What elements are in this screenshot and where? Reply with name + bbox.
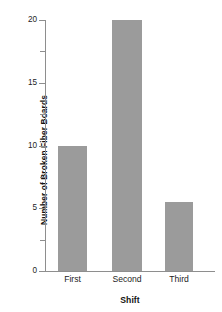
x-axis-tick-label: Third [149, 275, 209, 284]
y-axis-line [45, 20, 46, 272]
y-axis-tick-major [39, 208, 45, 209]
y-axis-tick-major [39, 146, 45, 147]
y-axis-tick-minor [40, 51, 45, 52]
x-axis-tick-label: Second [97, 275, 157, 284]
y-axis-tick-label: 0 [3, 267, 37, 275]
y-axis-tick-label: 10 [3, 142, 37, 150]
bar-chart: Number of Broken Fiber Boards 05101520 F… [0, 0, 222, 312]
x-axis-line [45, 271, 215, 272]
y-axis-tick-major [39, 271, 45, 272]
y-axis-tick-major [39, 83, 45, 84]
y-axis-tick-label: 15 [3, 79, 37, 87]
y-axis-title: Number of Broken Fiber Boards [39, 60, 49, 260]
bar [165, 202, 193, 271]
bar [112, 20, 142, 271]
y-axis-tick-label: 5 [3, 204, 37, 212]
x-axis-tick-label: First [43, 275, 103, 284]
bar [58, 146, 87, 272]
y-axis-tick-minor [40, 114, 45, 115]
y-axis-tick-major [39, 20, 45, 21]
y-axis-tick-label: 20 [3, 16, 37, 24]
y-axis-tick-minor [40, 240, 45, 241]
y-axis-tick-minor [40, 177, 45, 178]
x-axis-title: Shift [45, 295, 215, 305]
